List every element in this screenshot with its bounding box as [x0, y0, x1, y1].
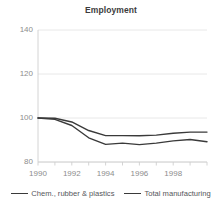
x-tick-label: 1992: [56, 170, 88, 178]
series-line-1: [38, 118, 207, 145]
legend-label: Total manufacturing: [144, 189, 210, 198]
x-tick-label: 1996: [123, 170, 155, 178]
legend-label: Chem., rubber & plastics: [31, 189, 114, 198]
series-line-0: [38, 118, 207, 136]
y-tick-label: 140: [3, 26, 33, 34]
legend-line-icon: [11, 193, 28, 194]
x-tick-marks: [38, 162, 207, 166]
y-tick-label: 80: [3, 158, 33, 166]
x-tick-label: 1994: [90, 170, 122, 178]
axis-lines: [38, 30, 207, 162]
legend-item[interactable]: Chem., rubber & plastics: [11, 189, 114, 198]
legend-item[interactable]: Total manufacturing: [124, 189, 210, 198]
y-tick-label: 100: [3, 114, 33, 122]
chart-legend: Chem., rubber & plasticsTotal manufactur…: [0, 189, 222, 198]
y-tick-label: 120: [3, 70, 33, 78]
series-lines: [38, 118, 207, 145]
x-tick-label: 1998: [157, 170, 189, 178]
employment-chart: Employment 14012010080 19901992199419961…: [0, 0, 222, 209]
x-tick-label: 1990: [22, 170, 54, 178]
legend-line-icon: [124, 193, 141, 194]
gridlines: [38, 30, 207, 162]
